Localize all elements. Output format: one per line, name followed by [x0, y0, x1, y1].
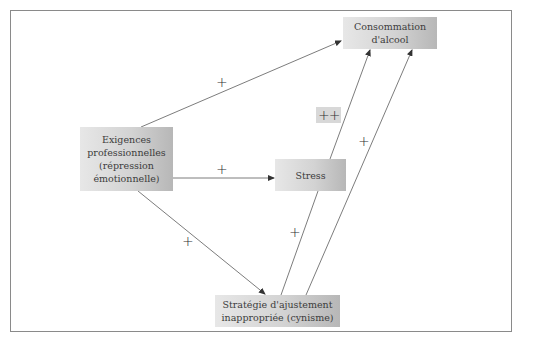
- edge-label-stress-alcohol: ++: [316, 107, 341, 123]
- node-demands-line-4: émotionnelle): [87, 172, 165, 185]
- node-demands-line-1: Exigences: [87, 133, 165, 146]
- node-demands-line-2: professionnelles: [87, 146, 165, 159]
- node-stress: Stress: [275, 159, 346, 191]
- edge-label-coping-alcohol: +: [358, 134, 370, 148]
- node-coping-line-2: inappropriée (cynisme): [222, 311, 334, 324]
- node-alcohol-consumption: Consommation d'alcool: [343, 17, 437, 49]
- edge-demands-alcohol: [141, 41, 341, 127]
- edge-label-coping-stress: +: [289, 225, 301, 239]
- node-demands-line-3: (répression: [87, 159, 165, 172]
- edge-label-demands-stress: +: [216, 162, 228, 176]
- node-coping-line-1: Stratégie d'ajustement: [222, 298, 334, 311]
- node-alcohol-line-2: d'alcool: [354, 33, 426, 46]
- edge-label-demands-coping: +: [182, 234, 194, 248]
- node-professional-demands: Exigences professionnelles (répression é…: [80, 127, 173, 191]
- node-stress-label: Stress: [295, 169, 325, 182]
- edge-label-demands-alcohol: +: [216, 75, 228, 89]
- node-alcohol-line-1: Consommation: [354, 20, 426, 33]
- edge-demands-coping: [138, 191, 265, 294]
- node-coping-strategy: Stratégie d'ajustement inappropriée (cyn…: [215, 295, 340, 327]
